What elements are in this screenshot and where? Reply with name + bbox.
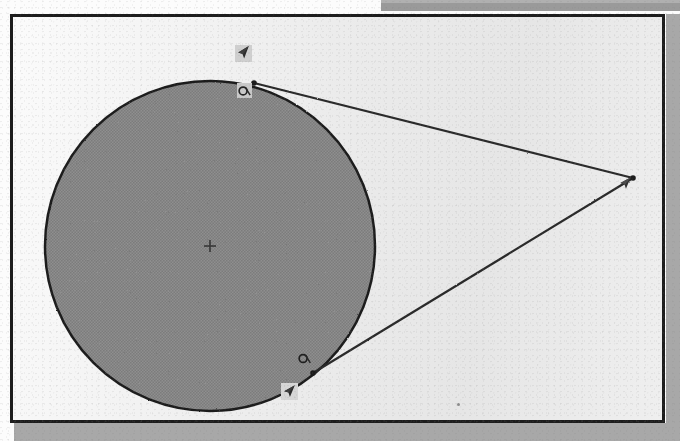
drawing-canvas[interactable]: [10, 14, 665, 423]
frame-shadow-right: [666, 14, 680, 441]
geometry-figure: [13, 17, 662, 420]
point-handle-glyph: [297, 351, 312, 366]
arrow-cursor-icon-lower[interactable]: [281, 383, 298, 400]
point-handle-glyph: [237, 83, 252, 98]
node-dot-lower: [310, 370, 316, 376]
arrow-cursor-icon-apex[interactable]: [617, 175, 634, 192]
node-dot-upper: [251, 80, 257, 86]
point-handle-icon-upper[interactable]: [237, 83, 252, 98]
arrow-cursor-icon-upper[interactable]: [235, 45, 252, 62]
arrow-cursor-glyph: [235, 45, 252, 62]
point-handle-icon-lower[interactable]: [297, 351, 312, 366]
scan-speck: [457, 403, 460, 406]
frame-shadow-bottom: [14, 423, 680, 441]
arrow-cursor-glyph: [281, 383, 298, 400]
arrow-cursor-glyph: [617, 175, 634, 192]
background-window-strip-highlight: [381, 0, 680, 3]
scanned-page: [0, 0, 680, 441]
geometry-svg: [13, 17, 662, 420]
